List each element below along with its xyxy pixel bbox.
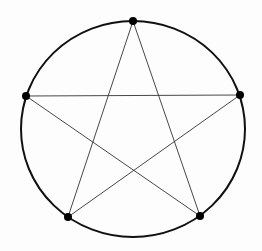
edge-left-right [26, 95, 240, 96]
vertex-top [129, 17, 137, 25]
pentagram-diagram [0, 0, 262, 251]
vertex-dots [22, 17, 244, 221]
vertex-left [22, 92, 30, 100]
circumscribed-circle [21, 21, 245, 237]
edge-right-bottom-left [68, 95, 240, 217]
edge-top-bottom-left [68, 21, 133, 217]
star-edges [26, 21, 240, 217]
vertex-bottom-right [196, 212, 204, 220]
edge-left-bottom-right [26, 96, 200, 216]
edge-top-bottom-right [133, 21, 200, 216]
vertex-bottom-left [64, 213, 72, 221]
vertex-right [236, 91, 244, 99]
